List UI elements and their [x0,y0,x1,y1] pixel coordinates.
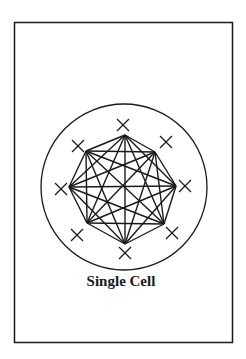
connection-line [69,186,176,187]
connection-line [86,151,155,152]
diagram-label: Single Cell [87,273,156,289]
connection-line [86,151,87,223]
connection-line [86,151,176,186]
diagram-frame [15,23,233,343]
connection-line [87,223,125,244]
x-mark-icon [166,227,178,239]
single-cell-diagram: Single Cell [0,0,246,359]
x-mark-icon [119,247,131,259]
node-connections [69,135,176,244]
connection-line [69,152,155,187]
x-mark-icon [71,229,83,241]
connection-line [164,186,176,224]
x-mark-icon [179,180,191,192]
x-mark-icon [160,136,172,148]
x-mark-icon [72,140,84,152]
connection-line [87,152,155,223]
x-mark-icon [117,119,129,131]
x-mark-icon [55,183,67,195]
connection-line [87,223,164,224]
connection-line [86,151,125,244]
